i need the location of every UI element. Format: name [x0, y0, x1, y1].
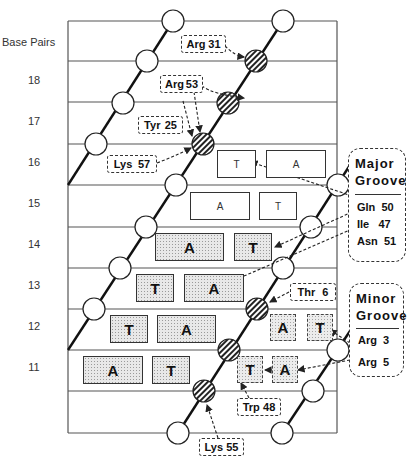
base-box: T [217, 150, 256, 178]
groove-residue: Asn 51 [357, 235, 396, 247]
base-box: T [307, 314, 333, 341]
residue-arg31: Arg31 [181, 35, 226, 53]
minor-groove-panel: Minor Groove Arg 3 Arg 5 [349, 283, 404, 377]
divider [356, 328, 399, 329]
title-line: Groove [355, 172, 407, 189]
base-box: A [184, 274, 244, 302]
residue-number: 6 [322, 286, 328, 298]
base-box: A [272, 356, 298, 383]
groove-residue: Arg 5 [358, 356, 389, 368]
row-label: 12 [4, 320, 64, 332]
residue-name: Trp [243, 401, 260, 413]
residue-trp48: Trp48 [237, 398, 281, 416]
row-label: 16 [4, 156, 64, 168]
row-label: 15 [4, 197, 64, 209]
base-box: A [157, 315, 216, 343]
base-box: A [266, 150, 326, 178]
residue-name: Arg [186, 38, 205, 50]
base-box: T [152, 356, 190, 384]
base-box: T [237, 356, 263, 383]
row-label: 11 [4, 361, 64, 373]
base-box: T [259, 192, 297, 220]
base-box: A [190, 192, 250, 220]
row-label: 17 [4, 115, 64, 127]
residue-name: Lys [205, 441, 224, 453]
base-box: T [110, 315, 148, 343]
groove-residue: Ile 47 [357, 218, 391, 230]
groove-residue: Arg 3 [358, 334, 389, 346]
base-box: T [234, 233, 272, 261]
residue-name: Tyr [144, 119, 160, 131]
divider [355, 194, 401, 195]
residue-number: 57 [138, 158, 150, 170]
base-box: A [155, 233, 224, 261]
residue-number: 48 [263, 401, 275, 413]
residue-name: Arg [165, 78, 184, 90]
base-box: A [83, 356, 143, 384]
residue-tyr25: Tyr25 [138, 116, 183, 134]
minor-groove-title: Minor Groove [356, 290, 408, 324]
residue-name: Lys [114, 158, 133, 170]
residue-thr6: Thr6 [290, 283, 336, 301]
residue-lys55: Lys55 [199, 438, 244, 456]
row-label: 14 [4, 238, 64, 250]
title-line: Major [355, 155, 407, 172]
residue-arg53: Arg53 [160, 75, 203, 93]
major-groove-title: Major Groove [355, 155, 407, 189]
residue-number: 25 [165, 119, 177, 131]
row-label: 18 [4, 74, 64, 86]
base-box: T [136, 274, 174, 302]
residue-number: 55 [226, 441, 238, 453]
title-line: Groove [356, 307, 408, 324]
base-box: A [270, 314, 296, 341]
residue-number: 53 [186, 78, 198, 90]
residue-name: Thr [298, 286, 316, 298]
axis-label: Base Pairs [2, 36, 55, 48]
row-label: 13 [4, 279, 64, 291]
residue-number: 31 [208, 38, 220, 50]
groove-residue: Gln 50 [357, 201, 394, 213]
residue-lys57: Lys57 [107, 155, 157, 173]
title-line: Minor [356, 290, 408, 307]
major-groove-panel: Major Groove Gln 50 Ile 47 Asn 51 [348, 148, 406, 262]
